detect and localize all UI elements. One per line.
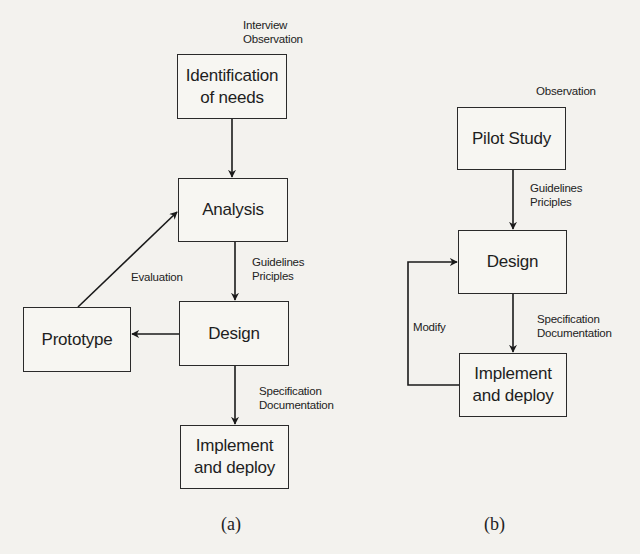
node-pilot-study: Pilot Study [457, 107, 566, 170]
node-design-b: Design [458, 230, 567, 294]
node-design-a: Design [179, 301, 289, 366]
node-text: of needs [186, 87, 279, 109]
node-text: Implement [194, 435, 275, 457]
node-identification-of-needs: Identification of needs [177, 54, 287, 119]
caption-b: (b) [484, 514, 505, 535]
annotation-guidelines-b: Guidelines Priciples [530, 181, 582, 209]
annotation-specification-b: Specification Documentation [537, 312, 612, 340]
node-text: Design [208, 323, 260, 345]
node-text: Identification [186, 65, 279, 87]
annotation-observation-b: Observation [536, 84, 596, 98]
node-text: Implement [472, 363, 553, 385]
annotation-specification-a: Specification Documentation [259, 384, 334, 412]
node-implement-a: Implement and deploy [180, 425, 289, 489]
node-text: Prototype [42, 329, 113, 351]
node-text: and deploy [472, 385, 553, 407]
node-text: Design [487, 251, 539, 273]
annotation-modify: Modify [413, 320, 446, 334]
node-analysis: Analysis [178, 178, 288, 242]
node-implement-b: Implement and deploy [459, 353, 567, 417]
annotation-evaluation: Evaluation [131, 270, 183, 284]
annotation-interview-observation: Interview Observation [243, 18, 303, 46]
node-text: Pilot Study [472, 128, 551, 150]
annotation-guidelines-a: Guidelines Priciples [252, 255, 304, 283]
node-text: and deploy [194, 457, 275, 479]
caption-a: (a) [221, 514, 241, 535]
edge-prototype-analysis [78, 212, 177, 307]
node-prototype: Prototype [23, 307, 131, 372]
node-text: Analysis [202, 199, 264, 221]
